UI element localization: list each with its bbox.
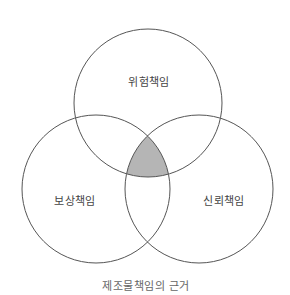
label-risk-liability: 위험책임 [128,73,169,89]
label-compensation-liability: 보상책임 [54,192,95,208]
venn-diagram [0,0,290,295]
highlight-region [74,29,222,177]
label-reliance-liability: 신뢰책임 [203,192,244,208]
diagram-caption: 제조물책임의 근거 [102,277,190,293]
